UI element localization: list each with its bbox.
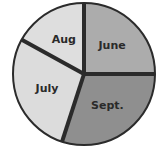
slice-label-sept: Sept. xyxy=(91,99,124,112)
slice-label-aug: Aug xyxy=(52,33,76,46)
slice-label-june: June xyxy=(98,39,126,52)
slice-label-july: July xyxy=(35,82,59,95)
pie-chart: JuneSept.JulyAug xyxy=(0,0,160,160)
